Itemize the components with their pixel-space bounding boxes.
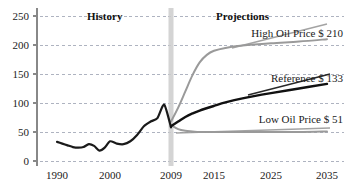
y-tick-label: 100 xyxy=(13,97,30,109)
annotation-label-low-oil-price: Low Oil Price $ 51 xyxy=(259,113,343,125)
y-tick-label: 0 xyxy=(24,155,30,167)
y-tick-label: 150 xyxy=(13,68,30,80)
annotation-label-high-oil-price: High Oil Price $ 210 xyxy=(251,27,343,39)
x-tick-label: 2035 xyxy=(316,169,339,181)
y-axis xyxy=(33,8,37,166)
x-tick-label: 2015 xyxy=(203,169,226,181)
x-tick-label: 2009 xyxy=(160,169,183,181)
annotation-label-reference: Reference $ 133 xyxy=(271,72,344,84)
history-projection-divider xyxy=(169,8,174,166)
period-label-projections: Projections xyxy=(216,10,270,22)
period-label-history: History xyxy=(87,10,123,22)
oil-price-projection-chart: 050100150200250199020002009201520252035H… xyxy=(0,0,347,187)
y-tick-label: 200 xyxy=(13,39,30,51)
chart-canvas: 050100150200250199020002009201520252035H… xyxy=(0,0,347,187)
x-tick-label: 1990 xyxy=(46,169,69,181)
y-tick-label: 50 xyxy=(18,126,30,138)
x-tick-label: 2000 xyxy=(99,169,122,181)
y-tick-label: 250 xyxy=(13,10,30,22)
x-tick-label: 2025 xyxy=(260,169,283,181)
series-line-history xyxy=(57,105,171,151)
